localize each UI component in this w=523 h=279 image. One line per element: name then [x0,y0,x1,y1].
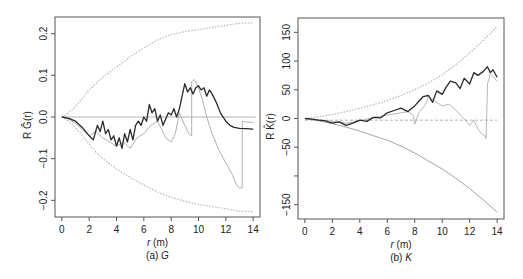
x-tick-label: 8 [412,226,418,237]
y-tick-label: 100 [281,52,292,69]
y-axis: −150−50050100150 [281,24,298,216]
x-tick-label: 4 [114,224,120,235]
x-tick-label: 12 [464,226,476,237]
y-tick-label: 50 [281,84,292,96]
y-tick-label: 0.2 [38,26,49,40]
y-axis-title: R K̂(r) [263,113,276,140]
series-observed-estimate [305,67,497,126]
series-upper-envelope [62,23,253,117]
x-tick-label: 0 [302,226,308,237]
plot-lines [62,23,256,212]
y-axis: −0.2−0.10.00.10.2 [38,26,55,210]
y-axis-title: R Ĝ(r) [21,111,33,139]
x-axis: 02468101214 [59,217,259,235]
x-tick-label: 2 [330,226,336,237]
plot-lines [305,27,497,213]
panel-caption: (b) K [390,252,413,263]
x-tick-label: 0 [59,224,65,235]
x-tick-label: 12 [220,224,232,235]
series-lower-envelope [305,119,497,213]
x-tick-label: 6 [384,226,390,237]
x-tick-label: 14 [248,224,260,235]
series-observed-estimate [62,84,253,149]
x-tick-label: 6 [141,224,147,235]
panel-g-function: 02468101214 −0.2−0.10.00.10.2 R Ĝ(r) r (… [21,17,260,261]
x-tick-label: 8 [168,224,174,235]
y-tick-label: 0.1 [38,68,49,82]
figure: 02468101214 −0.2−0.10.00.10.2 R Ĝ(r) r (… [0,0,523,279]
series-upper-envelope [305,27,497,119]
x-axis: 02468101214 [302,219,503,237]
series-lower-envelope [62,117,253,212]
y-tick-label: −50 [281,138,292,155]
x-tick-label: 2 [86,224,92,235]
y-tick-label: −150 [281,193,292,216]
x-axis-title: r (m) [390,239,411,250]
series-comparison-estimate [62,80,253,188]
x-tick-label: 4 [357,226,363,237]
x-tick-label: 14 [492,226,504,237]
panel-caption: (a) G [146,250,169,261]
plot-frame [298,18,504,219]
x-axis-title: r (m) [147,237,168,248]
panel-k-function: 02468101214 −150−50050100150 R K̂(r) r (… [263,18,504,263]
x-tick-label: 10 [437,226,449,237]
y-tick-label: −0.2 [38,190,49,210]
x-tick-label: 10 [193,224,205,235]
y-tick-label: 0 [281,115,292,121]
y-tick-label: 0.0 [38,110,49,124]
y-tick-label: 150 [281,24,292,41]
y-tick-label: −0.1 [38,148,49,168]
